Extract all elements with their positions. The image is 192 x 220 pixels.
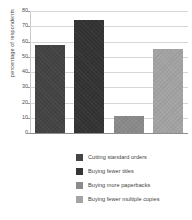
- y-axis-tick-labels: 01020304050607080: [12, 8, 28, 136]
- y-axis-tick-mark: [27, 133, 30, 134]
- gridline: [30, 133, 188, 134]
- legend-label: Buying fewer multiple copies: [88, 196, 159, 203]
- bar-2: [74, 20, 104, 133]
- legend-label: Cutting standard orders: [88, 154, 147, 161]
- y-axis-tick-label: 20: [12, 100, 28, 105]
- bar-texture: [74, 20, 104, 133]
- bar-texture: [114, 116, 144, 133]
- legend-label: Buying fewer titles: [88, 168, 134, 175]
- plot-area: percentage of respondents 01020304050607…: [0, 0, 192, 145]
- y-axis-tick-label: 50: [12, 54, 28, 59]
- bar-chart: percentage of respondents 01020304050607…: [0, 0, 192, 220]
- bar-3: [114, 116, 144, 133]
- bar-texture: [35, 45, 65, 133]
- y-axis-tick-label: 70: [12, 24, 28, 29]
- y-axis-tick-label: 10: [12, 115, 28, 120]
- legend-swatch-texture: [76, 182, 83, 189]
- bar-series-group: [30, 11, 188, 133]
- y-axis-tick-label: 40: [12, 69, 28, 74]
- chart-legend: Cutting standard ordersBuying fewer titl…: [76, 150, 192, 206]
- legend-swatch-texture: [76, 154, 83, 161]
- legend-item-2[interactable]: Buying fewer titles: [76, 164, 192, 178]
- legend-item-1[interactable]: Cutting standard orders: [76, 150, 192, 164]
- legend-swatch-icon: [76, 168, 83, 175]
- y-axis-tick-label: 80: [12, 8, 28, 13]
- legend-swatch-texture: [76, 168, 83, 175]
- legend-swatch-icon: [76, 196, 83, 203]
- bar-4: [153, 49, 183, 133]
- legend-item-4[interactable]: Buying fewer multiple copies: [76, 192, 192, 206]
- legend-swatch-icon: [76, 154, 83, 161]
- legend-swatch-icon: [76, 182, 83, 189]
- legend-label: Buying more paperbacks: [88, 182, 150, 189]
- bar-texture: [153, 49, 183, 133]
- y-axis-tick-label: 30: [12, 85, 28, 90]
- legend-item-3[interactable]: Buying more paperbacks: [76, 178, 192, 192]
- legend-swatch-texture: [76, 196, 83, 203]
- y-axis-tick-label: 0: [12, 130, 28, 135]
- y-axis-tick-label: 60: [12, 39, 28, 44]
- bar-1: [35, 45, 65, 133]
